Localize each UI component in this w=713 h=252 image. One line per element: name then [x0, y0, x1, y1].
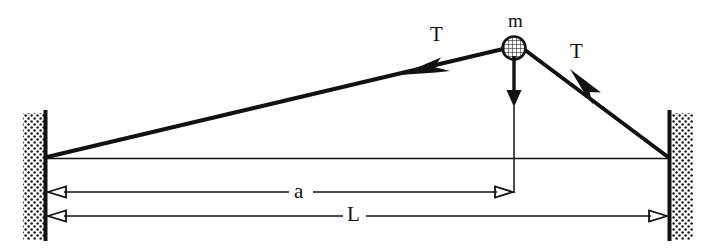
tension-left-label: T — [430, 24, 443, 45]
physics-diagram: m T T a L — [0, 0, 713, 252]
dimension-L-label: L — [347, 204, 360, 225]
tension-left-barb — [399, 58, 450, 76]
string-right-line — [525, 50, 668, 157]
dimension-a — [48, 187, 513, 198]
left-wall-face — [44, 110, 48, 241]
right-wall-face — [668, 110, 672, 241]
dimension-L-right-arrowhead — [649, 211, 667, 222]
string-right-segment — [525, 50, 668, 157]
dimension-L-left-arrowhead — [48, 211, 66, 222]
dimension-a-right-arrowhead — [495, 187, 513, 198]
weight-arrow-head — [507, 90, 522, 107]
left-wall — [23, 110, 48, 241]
string-left-segment — [47, 49, 503, 157]
right-wall-hatching — [672, 113, 693, 240]
mass-label: m — [508, 11, 523, 30]
left-wall-hatching — [23, 113, 44, 240]
right-wall — [668, 110, 694, 241]
weight-arrow — [507, 56, 522, 107]
dimension-a-label: a — [294, 181, 303, 202]
tension-left-arrowhead — [399, 58, 450, 76]
dimension-a-left-arrowhead — [48, 187, 66, 198]
tension-right-label: T — [570, 41, 583, 62]
